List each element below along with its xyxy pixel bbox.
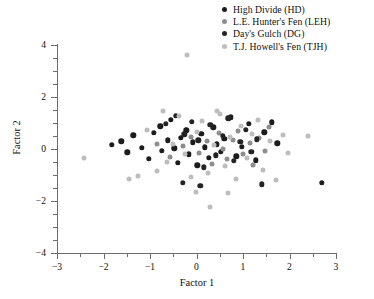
data-point-leh [154, 141, 159, 146]
legend-marker-dg [222, 31, 227, 36]
data-point-tjh [306, 134, 311, 139]
x-tick-label: 2 [277, 261, 303, 272]
x-axis-label: Factor 1 [147, 277, 247, 288]
data-point-dg [201, 164, 206, 169]
data-point-tjh [208, 204, 213, 209]
x-tick-major [57, 253, 58, 259]
data-point-hd [239, 144, 244, 149]
data-point-leh [236, 128, 241, 133]
data-point-leh [221, 147, 226, 152]
data-point-tjh [267, 139, 272, 144]
x-tick-major [243, 253, 244, 259]
data-point-tjh [164, 160, 169, 165]
data-point-tjh [135, 173, 140, 178]
x-tick-minor [220, 253, 221, 257]
data-point-leh [167, 154, 172, 159]
data-point-dg [198, 183, 203, 188]
x-tick-label: 3 [323, 261, 349, 272]
data-point-leh [197, 150, 202, 155]
data-point-hd [159, 148, 164, 153]
x-tick-label: 0 [184, 261, 210, 272]
data-point-tjh [200, 119, 205, 124]
x-tick-label: −1 [137, 261, 163, 272]
x-tick-minor [80, 253, 81, 257]
x-tick-label: −3 [44, 261, 70, 272]
x-tick-major [150, 253, 151, 259]
data-point-tjh [81, 156, 86, 161]
data-point-tjh [227, 134, 232, 139]
legend-marker-hd [222, 7, 227, 12]
data-point-tjh [239, 124, 244, 129]
legend-item-hd: High Divide (HD) [222, 3, 374, 15]
data-point-hd [262, 130, 267, 135]
data-point-hd [198, 131, 203, 136]
data-point-dg [231, 158, 236, 163]
data-point-hd [151, 130, 156, 135]
data-point-hd [165, 137, 170, 142]
data-point-tjh [273, 177, 278, 182]
data-point-tjh [255, 118, 260, 123]
data-point-tjh [185, 53, 190, 58]
data-point-tjh [244, 155, 249, 160]
data-point-tjh [188, 175, 193, 180]
x-tick-major [104, 253, 105, 259]
data-point-tjh [183, 151, 188, 156]
data-point-tjh [161, 109, 166, 114]
data-point-hd [168, 117, 173, 122]
data-point-hd [131, 133, 136, 138]
data-point-dg [163, 121, 168, 126]
data-point-tjh [171, 142, 176, 147]
legend-marker-leh [222, 19, 227, 24]
data-point-leh [263, 148, 268, 153]
x-tick-label: 1 [230, 261, 256, 272]
x-tick-label: −2 [91, 261, 117, 272]
x-tick-minor [173, 253, 174, 257]
y-tick-label: −2 [20, 195, 46, 206]
data-point-tjh [280, 133, 285, 138]
data-point-hd [319, 180, 324, 185]
data-point-leh [247, 140, 252, 145]
y-tick-label: 4 [20, 39, 46, 50]
x-tick-minor [313, 253, 314, 257]
data-point-leh [180, 144, 185, 149]
data-point-tjh [285, 150, 290, 155]
y-tick-label: −4 [20, 247, 46, 258]
data-point-leh [267, 124, 272, 129]
data-point-tjh [145, 127, 150, 132]
data-point-tjh [193, 189, 198, 194]
data-point-leh [251, 163, 256, 168]
data-point-tjh [226, 191, 231, 196]
plot-area [57, 45, 336, 253]
data-point-dg [259, 182, 264, 187]
x-tick-major [290, 253, 291, 259]
data-point-tjh [176, 114, 181, 119]
data-point-hd [275, 141, 280, 146]
data-point-hd [246, 121, 251, 126]
x-tick-major [197, 253, 198, 259]
data-point-leh [210, 161, 215, 166]
data-point-hd [195, 162, 200, 167]
scatter-plot-figure: High Divide (HD) L.E. Hunter's Fen (LEH)… [0, 0, 374, 299]
data-point-hd [139, 145, 144, 150]
x-tick-minor [127, 253, 128, 257]
data-point-hd [190, 140, 195, 145]
data-point-dg [254, 136, 259, 141]
y-tick-label: 0 [20, 143, 46, 154]
data-point-tjh [126, 177, 131, 182]
y-axis-label: Factor 2 [11, 98, 22, 178]
x-tick-major [336, 253, 337, 259]
data-point-dg [180, 180, 185, 185]
data-point-leh [204, 139, 209, 144]
data-point-dg [182, 132, 187, 137]
data-point-dg [213, 153, 218, 158]
data-point-tjh [261, 167, 266, 172]
data-point-hd [146, 156, 151, 161]
data-point-hd [206, 155, 211, 160]
y-tick-label: 2 [20, 91, 46, 102]
data-point-tjh [194, 129, 199, 134]
data-point-hd [118, 138, 123, 143]
data-point-tjh [214, 108, 219, 113]
data-point-hd [175, 160, 180, 165]
legend-label-leh: L.E. Hunter's Fen (LEH) [233, 16, 330, 27]
data-point-dg [243, 127, 248, 132]
